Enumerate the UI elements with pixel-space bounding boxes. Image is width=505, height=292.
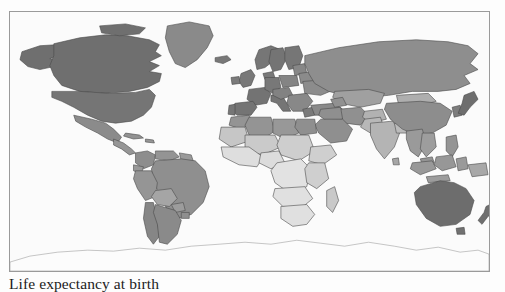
country-indonesia-sulawesi[interactable]	[456, 157, 468, 171]
country-uruguay[interactable]	[181, 212, 189, 218]
figure-caption: Life expectancy at birth	[9, 275, 159, 292]
figure-life-expectancy-map: Life expectancy at birth	[0, 0, 505, 292]
world-choropleth-svg[interactable]	[10, 12, 489, 271]
country-papua-new-guinea[interactable]	[468, 163, 488, 177]
country-ireland[interactable]	[231, 77, 240, 85]
country-tasmania[interactable]	[456, 227, 465, 234]
map-frame[interactable]	[9, 11, 490, 272]
country-sri-lanka[interactable]	[392, 158, 399, 165]
country-canada[interactable]	[50, 35, 162, 94]
country-portugal[interactable]	[228, 104, 235, 115]
